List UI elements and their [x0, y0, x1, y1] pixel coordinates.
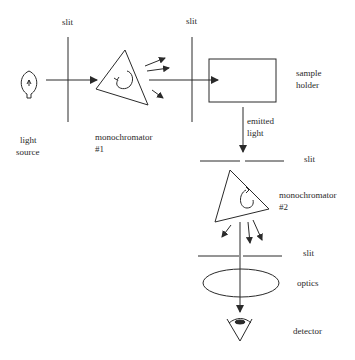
label-sample-holder: sample	[296, 68, 322, 78]
label-sample-holder-2: holder	[296, 80, 319, 90]
label-slit-2: slit	[186, 16, 198, 26]
label-monochromator-2-num: #2	[279, 202, 288, 212]
label-light-source: light	[20, 135, 37, 145]
label-monochromator-1: monochromator	[95, 132, 153, 142]
label-monochromator-1-num: #1	[95, 144, 104, 154]
monochromator-1-prism-icon	[96, 50, 148, 105]
optics-lens	[203, 269, 279, 297]
label-detector: detector	[293, 326, 322, 336]
label-slit-4: slit	[303, 248, 315, 258]
label-emitted-light-2: light	[247, 128, 264, 138]
label-optics: optics	[297, 278, 319, 288]
eye-icon	[227, 319, 252, 342]
lightbulb-icon	[21, 71, 37, 98]
label-light-source-2: source	[16, 147, 40, 157]
sample-holder	[209, 59, 276, 102]
label-slit-3: slit	[304, 154, 316, 164]
spectrometer-diagram: slit light source monochromator #1 slit …	[0, 0, 355, 360]
label-monochromator-2: monochromator	[279, 190, 337, 200]
label-slit-1: slit	[62, 17, 74, 27]
monochromator-2-prism-icon	[215, 170, 269, 222]
label-emitted-light: emitted	[247, 116, 274, 126]
